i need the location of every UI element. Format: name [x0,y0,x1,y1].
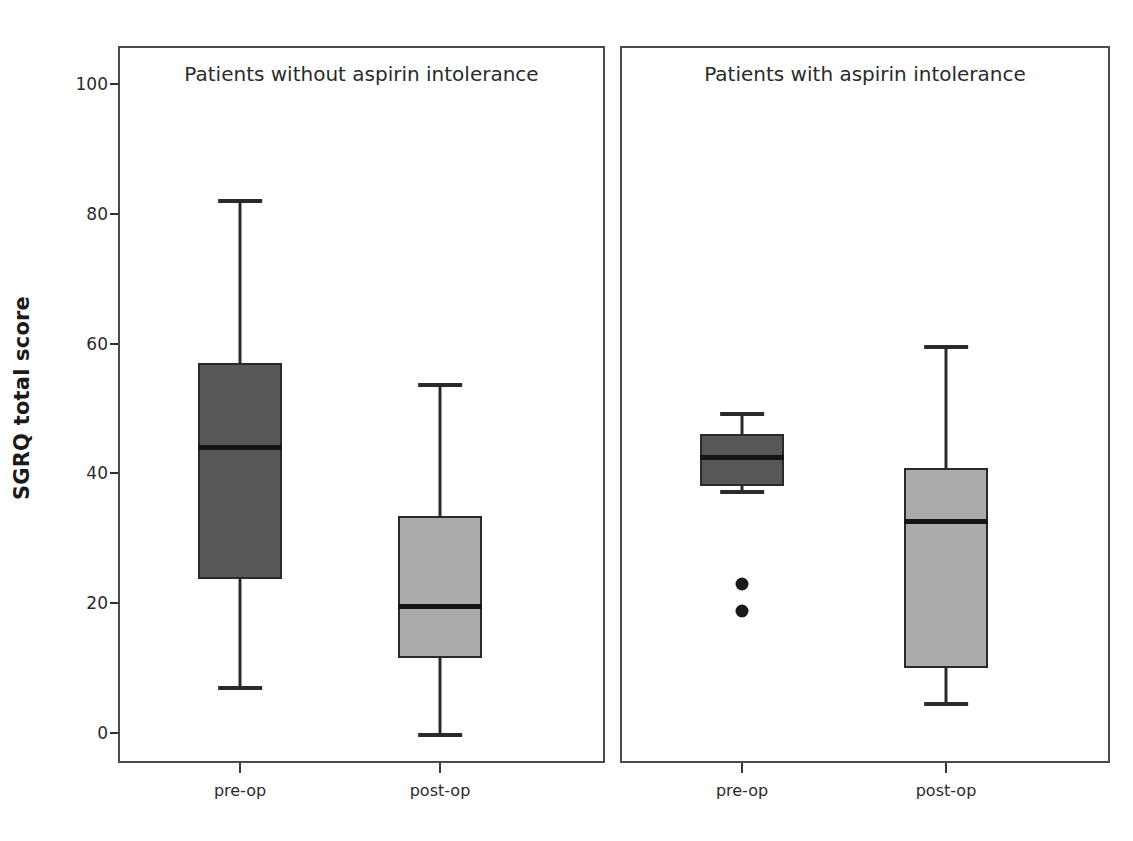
median-line [198,445,282,450]
whisker-cap-upper [218,199,262,203]
outlier-point [736,604,749,617]
x-tick-label: post-op [916,781,977,800]
whisker-cap-lower [218,686,262,690]
plot-panel-1: Patients without aspirin intolerance [118,46,605,763]
whisker-cap-upper [418,383,462,387]
whisker-upper [945,345,948,468]
y-tick-label: 80 [62,204,108,224]
plot-panel-2: Patients with aspirin intolerance [620,46,1110,763]
y-tick-label: 0 [62,723,108,743]
x-tick-mark [439,763,441,773]
y-tick-label: 20 [62,593,108,613]
x-tick-label: pre-op [716,781,768,800]
whisker-upper [239,199,242,363]
box-post-op [904,468,988,668]
whisker-cap-upper [720,412,764,416]
x-tick-mark [945,763,947,773]
whisker-cap-lower [720,490,764,494]
y-tick-label: 60 [62,334,108,354]
whisker-cap-lower [418,733,462,737]
whisker-lower [239,579,242,687]
box-pre-op [198,363,282,578]
median-line [904,519,988,524]
median-line [398,604,482,609]
outlier-point [736,577,749,590]
x-tick-mark [741,763,743,773]
y-tick-label: 100 [62,74,108,94]
y-tick-label: 40 [62,463,108,483]
whisker-cap-lower [924,702,968,706]
boxplot-figure: SGRQ total score 020406080100 Patients w… [0,0,1133,841]
x-tick-label: post-op [410,781,471,800]
panel-title: Patients without aspirin intolerance [120,62,603,86]
whisker-upper [439,383,442,517]
whisker-lower [945,668,948,702]
x-tick-mark [239,763,241,773]
whisker-cap-upper [924,345,968,349]
y-axis-title: SGRQ total score [10,268,34,528]
panel-title: Patients with aspirin intolerance [622,62,1108,86]
x-tick-label: pre-op [214,781,266,800]
box-pre-op [700,434,784,486]
median-line [700,455,784,460]
whisker-lower [439,658,442,733]
box-post-op [398,516,482,658]
